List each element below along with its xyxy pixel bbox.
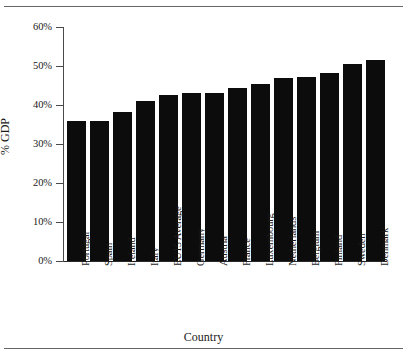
y-axis-tick [56, 261, 64, 262]
y-axis-tick [56, 105, 64, 106]
y-axis-tick-label: 20% [6, 178, 52, 188]
y-axis-title: % GDP [0, 118, 13, 155]
x-axis-tick-label: Spain [103, 243, 114, 266]
y-axis-tick [56, 183, 64, 184]
x-axis-tick-label: France [241, 238, 252, 266]
x-axis-tick-label: Germany [195, 228, 206, 266]
x-axis-tick-label: Finland [333, 235, 344, 266]
x-axis-tick-label: Netherlands [287, 217, 298, 266]
chart-figure: 0%10%20%30%40%50%60% PortugalSpainIrelan… [0, 0, 407, 363]
x-axis-title: Country [0, 330, 407, 345]
x-axis-tick-label: Luxembourg [264, 213, 275, 266]
x-axis-tick-label: Sweden [356, 234, 367, 266]
y-axis-tick-label: 10% [6, 217, 52, 227]
x-axis-tick-label: Portugal [80, 232, 91, 266]
figure-bottom-rule [4, 348, 403, 349]
y-axis-tick-label: 50% [6, 61, 52, 71]
y-axis-tick [56, 144, 64, 145]
y-axis-tick [56, 222, 64, 223]
x-axis-tick-label: EU15 Average [172, 206, 183, 266]
y-axis-tick-label: 0% [6, 256, 52, 266]
bar-series [64, 27, 386, 261]
bar [343, 64, 361, 261]
y-axis-tick-label: 40% [6, 100, 52, 110]
x-axis-tick-label: Italy [149, 248, 160, 267]
y-axis-tick [56, 66, 64, 67]
bar [320, 73, 338, 261]
x-axis-tick-label: Denmark [379, 228, 390, 266]
bar [228, 88, 246, 261]
x-axis-tick-label: Ireland [126, 237, 137, 266]
figure-top-rule [4, 6, 403, 7]
y-axis-title-text: % GDP [0, 118, 13, 155]
x-axis-tick-label: Belgium [310, 231, 321, 266]
bar [90, 121, 108, 261]
y-axis-tick-label: 60% [6, 22, 52, 32]
x-axis-tick-label: Austria [218, 236, 229, 266]
y-axis-tick [56, 27, 64, 28]
plot-area [64, 27, 386, 261]
bar [136, 101, 154, 261]
